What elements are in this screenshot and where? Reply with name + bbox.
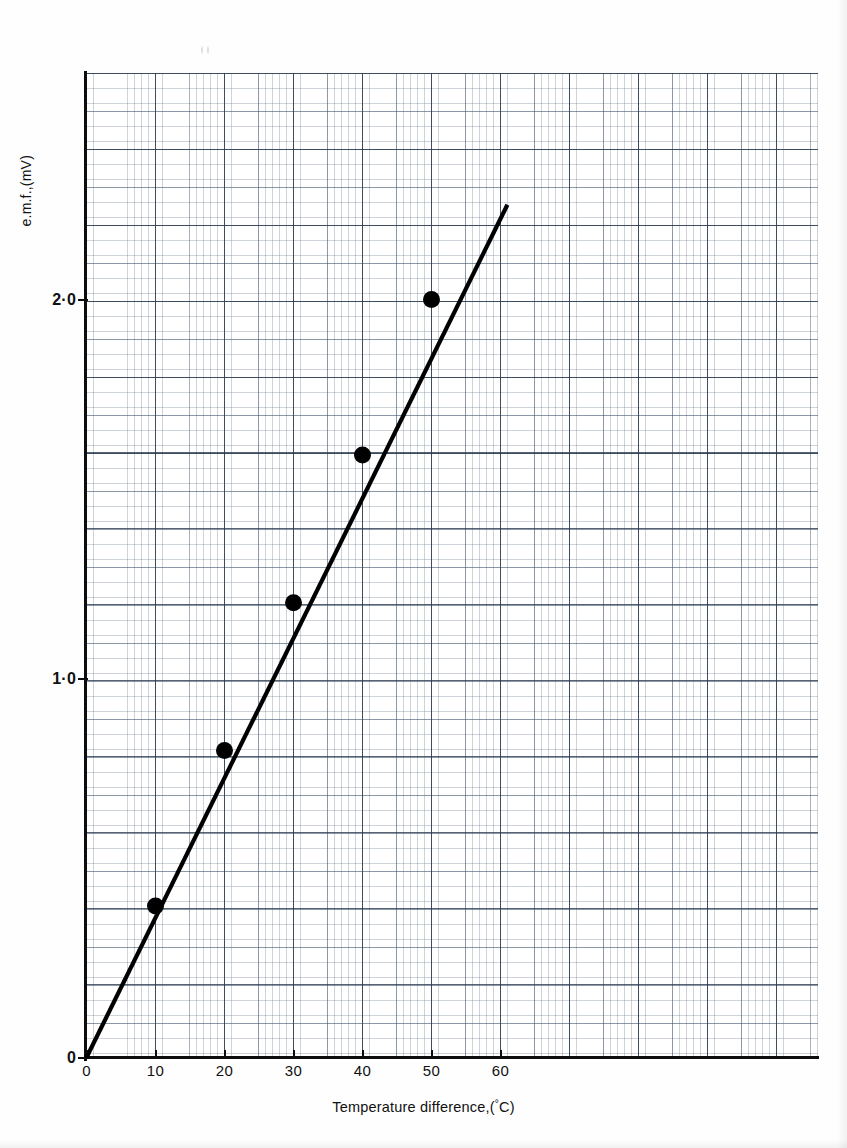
page-edge-shadow-bottom (0, 1140, 847, 1148)
y-tick-label: 2·0 (52, 291, 76, 309)
medium-gridlines (86, 73, 818, 1057)
y-tick-mark (78, 299, 88, 301)
y-tick-mark (78, 678, 88, 680)
x-tick-mark (500, 1050, 502, 1059)
fine-gridlines (86, 73, 818, 1057)
x-tick-mark (155, 1050, 157, 1059)
x-axis-title-prefix: Temperature difference,( (332, 1099, 495, 1115)
x-tick-label: 50 (423, 1062, 440, 1079)
x-axis-line (84, 1056, 819, 1059)
x-tick-label: 0 (82, 1062, 91, 1079)
x-tick-label: 60 (492, 1062, 509, 1079)
x-tick-mark (362, 1050, 364, 1059)
x-tick-mark (431, 1050, 433, 1059)
x-tick-label: 40 (354, 1062, 371, 1079)
y-tick-label: 0 (67, 1049, 76, 1067)
x-tick-mark (293, 1050, 295, 1059)
x-tick-label: 20 (216, 1062, 233, 1079)
graph-page: 0102030405060 01·02·0 e.m.f.,(mV) Temper… (0, 0, 847, 1148)
x-axis-title: Temperature difference,(°C) (0, 1098, 847, 1115)
plot-area (86, 73, 818, 1057)
x-axis-title-suffix: C) (499, 1099, 515, 1115)
page-edge-shadow-right (837, 0, 847, 1148)
major-gridlines (86, 73, 818, 1057)
y-axis-line (84, 71, 87, 1061)
y-tick-mark (78, 1057, 88, 1059)
x-tick-label: 10 (147, 1062, 164, 1079)
y-axis-title: e.m.f.,(mV) (18, 155, 34, 226)
y-tick-label: 1·0 (52, 670, 76, 688)
x-tick-label: 30 (285, 1062, 302, 1079)
x-tick-mark (224, 1050, 226, 1059)
scan-smudge-mark (199, 44, 211, 57)
